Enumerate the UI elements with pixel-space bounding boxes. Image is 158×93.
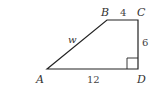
right-angle-marker xyxy=(127,58,138,69)
vertex-label-d: D xyxy=(136,73,146,86)
side-label-bc: 4 xyxy=(120,7,126,18)
side-label-ab: w xyxy=(68,34,77,45)
trapezoid-diagram: B 4 C w 6 A 12 D xyxy=(0,0,158,93)
vertex-label-b: B xyxy=(100,6,109,19)
side-label-ad: 12 xyxy=(87,74,100,85)
vertex-label-a: A xyxy=(35,73,44,86)
vertex-label-c: C xyxy=(137,6,146,19)
side-label-cd: 6 xyxy=(142,37,148,48)
trapezoid-shape xyxy=(47,20,138,69)
